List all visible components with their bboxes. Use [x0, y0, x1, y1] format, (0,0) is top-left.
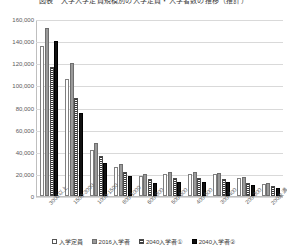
bar-group [234, 20, 259, 196]
legend-label: 2016入学者 [99, 237, 130, 246]
legend-item[interactable]: 入学定員 [52, 237, 83, 246]
bar-group [258, 20, 283, 196]
y-axis-tick-label: 40,000 [0, 150, 34, 156]
chart-legend: 入学定員2016入学者2040入学者①2040入学者② [0, 237, 287, 246]
x-axis-tick: 300-400 [209, 199, 234, 233]
y-axis-tick-label: 140,000 [0, 39, 34, 45]
y-axis-tick-label: 100,000 [0, 83, 34, 89]
x-axis-labels: 3000以上1500-30001000-1500800-1000600-8005… [37, 199, 283, 233]
bar[interactable] [45, 28, 49, 196]
bar[interactable] [217, 173, 221, 196]
bar[interactable] [79, 113, 83, 196]
x-axis-tick: 400-500 [185, 199, 210, 233]
x-axis-tick: 200未満 [258, 199, 283, 233]
legend-swatch-icon [192, 239, 197, 244]
legend-swatch-icon [92, 239, 97, 244]
bar[interactable] [119, 164, 123, 196]
chart-title: 図表 大学入学定員規模別の入学定員・入学者数の推移（推計） [0, 0, 287, 5]
bar-groups [37, 20, 283, 196]
bar[interactable] [40, 46, 44, 196]
legend-item[interactable]: 2016入学者 [92, 237, 130, 246]
x-axis-tick: 200-300 [234, 199, 259, 233]
legend-label: 入学定員 [59, 237, 83, 246]
bar-group [37, 20, 62, 196]
bar[interactable] [54, 41, 58, 196]
bar[interactable] [50, 67, 54, 196]
y-axis-tick-label: 80,000 [0, 106, 34, 112]
bar-group [160, 20, 185, 196]
bar-group [62, 20, 87, 196]
bar[interactable] [213, 174, 217, 196]
x-axis-line [36, 196, 283, 197]
bar-group [185, 20, 210, 196]
bar[interactable] [237, 178, 241, 196]
bar[interactable] [74, 98, 78, 196]
y-axis-tick-label: 160,000 [0, 17, 34, 23]
bar[interactable] [70, 63, 74, 196]
plot-area [36, 20, 283, 197]
bar-group [135, 20, 160, 196]
y-axis-tick-label: 20,000 [0, 172, 34, 178]
bar[interactable] [94, 143, 98, 196]
bar[interactable] [143, 174, 147, 196]
x-axis-tick: 1000-1500 [86, 199, 111, 233]
y-axis-tick-label: 120,000 [0, 61, 34, 67]
bar-group [86, 20, 111, 196]
x-axis-tick: 3000以上 [37, 199, 62, 233]
legend-label: 2040入学者② [199, 237, 236, 246]
legend-item[interactable]: 2040入学者② [192, 237, 236, 246]
bar[interactable] [123, 172, 127, 196]
bar[interactable] [148, 179, 152, 196]
x-axis-tick: 1500-3000 [62, 199, 87, 233]
bar[interactable] [266, 183, 270, 196]
bar[interactable] [188, 174, 192, 196]
bar-group [111, 20, 136, 196]
bar[interactable] [197, 178, 201, 196]
bar[interactable] [242, 177, 246, 196]
legend-item[interactable]: 2040入学者① [139, 237, 183, 246]
bar-chart: 図表 大学入学定員規模別の入学定員・入学者数の推移（推計） 160,000140… [0, 0, 287, 249]
legend-label: 2040入学者① [146, 237, 183, 246]
x-axis-tick: 800-1000 [111, 199, 136, 233]
x-axis-tick: 500-600 [160, 199, 185, 233]
y-axis-labels: 160,000140,000120,000100,00080,00060,000… [0, 0, 34, 249]
x-axis-tick: 600-800 [135, 199, 160, 233]
legend-swatch-icon [52, 239, 57, 244]
y-axis-tick-label: 60,000 [0, 128, 34, 134]
y-axis-tick-label: 0 [0, 194, 34, 200]
bar-group [209, 20, 234, 196]
bar[interactable] [99, 156, 103, 196]
bar[interactable] [65, 79, 69, 196]
bar[interactable] [168, 172, 172, 196]
legend-swatch-icon [139, 239, 144, 244]
bar[interactable] [163, 174, 167, 196]
bar[interactable] [193, 172, 197, 196]
